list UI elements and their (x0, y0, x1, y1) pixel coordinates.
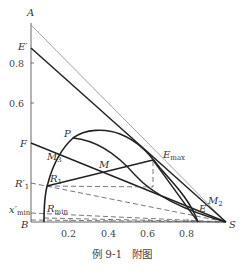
tick-0-2: 0.2 (61, 228, 76, 239)
hypotenuse-line (31, 25, 226, 222)
label-e-prime: E′ (17, 41, 28, 52)
tick-0-8x: 0.8 (179, 228, 194, 239)
label-b: B (20, 219, 28, 230)
figure-caption: 例 9-1 附图 (92, 248, 152, 260)
label-r1-prime: R′1 (14, 178, 29, 191)
label-p: P (63, 128, 71, 139)
label-m: M (98, 159, 110, 170)
label-a: A (26, 7, 34, 18)
tick-0-8: 0.8 (9, 58, 24, 69)
phase-diagram: A E′ 0.8 0.6 F R′1 x′min B 0.2 0.4 0.6 0… (0, 0, 244, 275)
label-s: S (229, 219, 236, 230)
label-emax: Emax (162, 149, 185, 162)
label-m3: M3 (46, 151, 62, 164)
label-s-min: x′min (9, 204, 31, 217)
label-e: E (198, 203, 207, 214)
tick-0-4: 0.4 (101, 228, 116, 239)
label-m2: M2 (207, 195, 223, 208)
tick-0-6: 0.6 (9, 98, 24, 109)
tick-0-6x: 0.6 (140, 228, 155, 239)
e-prime-s-line (31, 48, 226, 222)
label-f: F (19, 138, 28, 149)
